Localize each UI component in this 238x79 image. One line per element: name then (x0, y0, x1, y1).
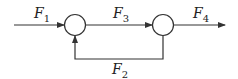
label-f3-sub: 3 (123, 13, 129, 24)
label-f3-text: F (113, 5, 123, 21)
summing-junction-2 (153, 15, 174, 36)
label-f1-sub: 1 (44, 13, 50, 24)
label-f4: F4 (193, 6, 209, 24)
label-f2-sub: 2 (122, 69, 128, 79)
label-f2-text: F (112, 61, 122, 77)
label-f4-text: F (193, 5, 203, 21)
summing-junction-1 (65, 15, 86, 36)
block-diagram: F1 F3 F4 F2 (0, 0, 238, 79)
label-f1-text: F (34, 5, 44, 21)
edge-f2-feedback (75, 36, 163, 60)
label-f3: F3 (113, 6, 129, 24)
label-f1: F1 (34, 6, 50, 24)
label-f2: F2 (112, 62, 128, 79)
label-f4-sub: 4 (203, 13, 209, 24)
